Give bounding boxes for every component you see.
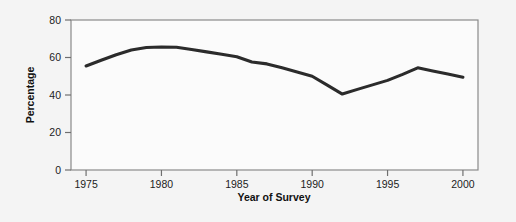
y-tick-label: 0 [55, 164, 61, 176]
x-tick-label: 1985 [225, 178, 249, 190]
x-axis-ticks: 197519801985199019952000 [74, 170, 474, 190]
x-tick-label: 1975 [74, 178, 98, 190]
figure-container: 020406080 197519801985199019952000 Year … [0, 0, 516, 222]
y-axis-title: Percentage [24, 67, 36, 124]
y-tick-label: 60 [49, 51, 61, 63]
y-axis-ticks: 020406080 [49, 14, 71, 176]
plot-frame [71, 20, 478, 170]
x-tick-label: 1990 [301, 178, 325, 190]
x-tick-label: 2000 [451, 178, 475, 190]
x-axis-title: Year of Survey [238, 191, 311, 203]
y-tick-label: 40 [49, 89, 61, 101]
y-tick-label: 20 [49, 126, 61, 138]
line-chart: 020406080 197519801985199019952000 Year … [0, 0, 516, 222]
x-tick-label: 1980 [150, 178, 174, 190]
y-tick-label: 80 [49, 14, 61, 26]
x-tick-label: 1995 [376, 178, 400, 190]
